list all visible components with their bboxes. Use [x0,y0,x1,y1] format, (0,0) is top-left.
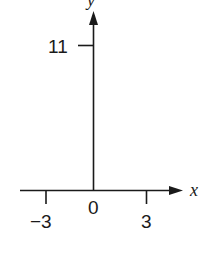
x-axis-arrow-icon [169,186,183,195]
y-axis-arrow-icon [89,11,98,25]
coordinate-plane: y x 11 −3 0 3 [0,0,215,254]
x-axis-label: x [189,180,198,200]
origin-label: 0 [88,197,99,218]
x-tick-label-3: 3 [141,211,152,232]
y-axis-label: y [85,0,95,10]
y-tick-label-11: 11 [48,36,68,57]
x-tick-label-neg3: −3 [30,211,52,232]
